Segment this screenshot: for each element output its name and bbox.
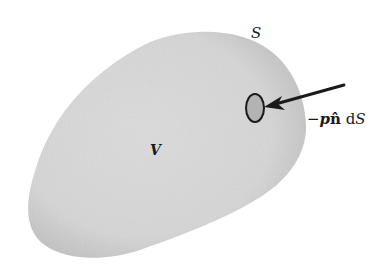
force-label: −pn̂ dS: [307, 110, 366, 128]
force-label-d: d: [341, 110, 356, 128]
force-label-minus: −: [307, 110, 320, 128]
force-label-p: p: [320, 110, 331, 128]
surface-patch-ellipse: [246, 94, 264, 122]
force-label-nhat: n̂: [330, 110, 341, 128]
surface-label: S: [251, 24, 261, 42]
pressure-force-diagram: S V −pn̂ dS: [0, 0, 388, 266]
volume-body: [28, 32, 306, 258]
force-label-S: S: [355, 110, 365, 128]
